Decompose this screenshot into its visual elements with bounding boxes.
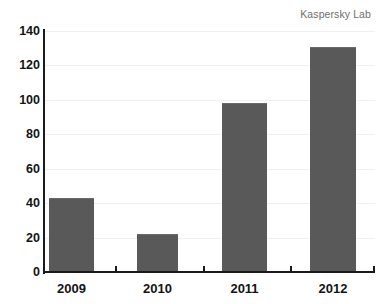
x-axis-tick — [373, 266, 375, 273]
attribution-label: Kaspersky Lab — [300, 8, 371, 20]
y-axis-labels: 020406080100120140 — [0, 31, 40, 272]
bar-2009 — [49, 198, 94, 272]
x-axis-label-2010: 2010 — [143, 281, 172, 296]
x-axis-tick — [290, 266, 292, 273]
x-axis-label-2011: 2011 — [230, 281, 258, 296]
bar-2010 — [137, 234, 178, 272]
y-axis-tick-label: 40 — [0, 196, 40, 210]
y-axis-tick-label: 140 — [0, 24, 40, 38]
y-axis-tick-label: 120 — [0, 58, 40, 72]
x-axis-label-2009: 2009 — [57, 281, 86, 296]
y-axis-tick-label: 60 — [0, 162, 40, 176]
x-axis-line — [43, 271, 375, 273]
y-axis-tick-label: 20 — [0, 231, 40, 245]
bar-chart: Kaspersky Lab 020406080100120140 2009201… — [0, 0, 379, 304]
x-axis-label-2012: 2012 — [319, 281, 348, 296]
y-axis-tick-label: 80 — [0, 127, 40, 141]
y-axis-tick-label: 100 — [0, 93, 40, 107]
x-axis-tick — [203, 266, 205, 273]
gridline — [44, 31, 375, 32]
y-axis-line — [43, 29, 45, 274]
plot-area — [44, 31, 375, 272]
bar-2011 — [222, 103, 267, 272]
x-axis-tick — [115, 266, 117, 273]
bar-2012 — [310, 47, 356, 273]
y-axis-tick-label: 0 — [0, 265, 40, 279]
